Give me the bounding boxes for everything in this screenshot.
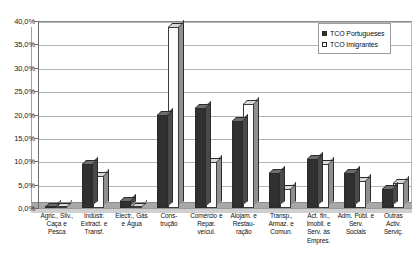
bar-face [232, 121, 243, 208]
bar-side [168, 108, 173, 205]
y-tick-label: 30,0% [14, 63, 35, 72]
bar-face [45, 206, 56, 208]
x-tick-label: OutrasActiv.Serviç. [373, 212, 414, 237]
bar-group [113, 21, 150, 208]
x-tick-label: Comércio eRepar.veícul. [186, 212, 227, 237]
y-tick-label: 0,0% [18, 204, 35, 213]
bar-face [157, 115, 168, 209]
bar [45, 207, 56, 208]
bar [307, 159, 318, 208]
bar-group [188, 21, 225, 208]
x-tick-label: Agric., Silv.,Caça ePesca [36, 212, 77, 237]
bar-face [307, 159, 318, 208]
legend-item-label: TCO Imigrantes [330, 41, 378, 48]
bar-face [344, 173, 355, 208]
bar-side [243, 114, 248, 205]
bar-group [262, 21, 299, 208]
bar [195, 108, 206, 209]
bar-side [93, 157, 98, 205]
bar-side [329, 157, 334, 205]
bar [232, 121, 243, 208]
y-tick-label: 20,0% [14, 110, 35, 119]
x-tick-label: Adm. Públ. eServ.Sociais [335, 212, 376, 237]
bar-side [206, 101, 211, 205]
bar-face [382, 189, 393, 208]
bar-face [195, 108, 206, 209]
y-tick-label: 25,0% [14, 87, 35, 96]
dark-square-swatch [322, 31, 327, 36]
x-tick-label: Electr., Gáse Água [111, 212, 152, 228]
y-tick-label: 5,0% [18, 180, 35, 189]
bar-side [318, 152, 323, 205]
bar-face [82, 164, 93, 208]
y-tick-label: 40,0% [14, 17, 35, 26]
bar-side [254, 97, 259, 205]
bar-face [131, 206, 142, 208]
bar [157, 115, 168, 209]
x-tick-label: Act. fin.,Imobil. eServ. àsEmpres. [298, 212, 339, 245]
bar-chart: (cont.) 0,0%5,0%10,0%15,0%20,0%25,0%30,0… [0, 0, 416, 255]
bar-face [120, 201, 131, 208]
chart-legend: TCO Portugueses TCO Imigrantes [318, 23, 391, 54]
bar-side [179, 20, 184, 205]
bar [120, 201, 131, 208]
chart-title: (cont.) [0, 0, 416, 1]
bar-group [150, 21, 187, 208]
x-axis-labels: Agric., Silv.,Caça ePescaIndústr.Extract… [38, 212, 412, 255]
legend-item: TCO Imigrantes [322, 39, 385, 49]
legend-item-label: TCO Portugueses [330, 30, 385, 37]
x-tick-label: Cons-trução [148, 212, 189, 228]
bar [344, 173, 355, 208]
bar [131, 207, 142, 208]
bar-group [225, 21, 262, 208]
bar-face [56, 206, 67, 208]
y-tick-mark [34, 208, 39, 209]
bar [382, 189, 393, 208]
x-tick-label: Transp.,Armaz. eComun. [260, 212, 301, 237]
y-tick-label: 35,0% [14, 40, 35, 49]
bar-group [38, 21, 75, 208]
bar [269, 173, 280, 208]
y-tick-label: 15,0% [14, 133, 35, 142]
bar [82, 164, 93, 208]
y-tick-label: 10,0% [14, 157, 35, 166]
x-tick-label: Indústr.Extract. eTransf. [73, 212, 114, 237]
bar-side [217, 155, 222, 205]
bar-face [269, 173, 280, 208]
bar-group [75, 21, 112, 208]
legend-item: TCO Portugueses [322, 28, 385, 38]
x-tick-label: Alojam. eRestau-ração [223, 212, 264, 237]
bar [56, 207, 67, 208]
hollow-square-swatch [322, 42, 327, 47]
